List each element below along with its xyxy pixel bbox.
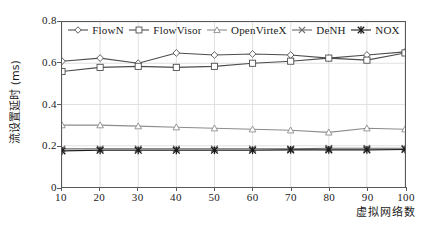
x-tick-40: 40 <box>170 191 182 203</box>
x-tick-10: 10 <box>55 191 67 203</box>
y-tick-0.2: 0.2 <box>42 140 57 151</box>
data-point-flowvisor-80 <box>326 55 332 61</box>
data-series-layer <box>62 22 405 187</box>
x-tick-mark <box>214 187 215 191</box>
chart-legend: FlowNFlowVisorOpenVirteXDeNHNOX <box>61 21 406 39</box>
series-line-nox <box>62 149 405 150</box>
x-tick-mark <box>137 187 138 191</box>
legend-marker-star-icon <box>350 24 372 36</box>
data-point-flowvisor-70 <box>288 58 294 64</box>
legend-label-flown: FlowN <box>92 24 124 36</box>
x-tick-mark <box>61 187 62 191</box>
legend-label-denh: DeNH <box>316 24 346 36</box>
data-point-flown-20 <box>97 55 104 62</box>
x-tick-mark <box>367 187 368 191</box>
x-tick-mark <box>329 187 330 191</box>
legend-item-nox[interactable]: NOX <box>350 24 399 36</box>
data-point-flowvisor-90 <box>364 57 370 63</box>
data-point-flown-40 <box>173 50 180 57</box>
x-tick-80: 80 <box>323 191 335 203</box>
plot-area <box>61 21 406 188</box>
legend-item-denh[interactable]: DeNH <box>291 24 346 36</box>
legend-item-flowvisor[interactable]: FlowVisor <box>128 24 201 36</box>
data-point-flowvisor-30 <box>135 63 141 69</box>
x-tick-30: 30 <box>132 191 144 203</box>
x-tick-100: 100 <box>397 191 415 203</box>
legend-marker-square-icon <box>128 24 150 36</box>
x-tick-20: 20 <box>93 191 105 203</box>
series-line-flown <box>62 52 405 63</box>
legend-marker-triangle-icon <box>206 24 228 36</box>
legend-item-flown[interactable]: FlowN <box>67 24 124 36</box>
latency-line-chart: 00.20.40.60.8 流设置延时 (ms) FlowNFlowVisorO… <box>0 0 432 232</box>
legend-marker-cross-icon <box>291 24 313 36</box>
x-tick-mark <box>252 187 253 191</box>
x-tick-mark <box>176 187 177 191</box>
legend-label-openvirtex: OpenVirteX <box>231 24 287 36</box>
x-tick-mark <box>406 187 407 191</box>
legend-item-openvirtex[interactable]: OpenVirteX <box>206 24 287 36</box>
data-point-flowvisor-100 <box>402 50 405 56</box>
x-tick-50: 50 <box>208 191 220 203</box>
series-line-denh <box>62 148 405 149</box>
x-axis-title: 虚拟网络数 <box>356 207 416 219</box>
x-tick-70: 70 <box>285 191 297 203</box>
data-point-flowvisor-40 <box>173 64 179 70</box>
data-point-flowvisor-20 <box>97 64 103 70</box>
y-axis-title: 流设置延时 (ms) <box>10 42 22 162</box>
legend-label-nox: NOX <box>375 24 399 36</box>
data-point-flown-10 <box>62 58 65 65</box>
y-tick-0.4: 0.4 <box>42 99 57 110</box>
series-line-openvirtex <box>62 125 405 132</box>
data-point-flowvisor-50 <box>211 63 217 69</box>
data-point-flown-70 <box>287 52 294 59</box>
y-tick-0.8: 0.8 <box>42 15 57 26</box>
data-point-flown-60 <box>249 51 256 58</box>
legend-marker-diamond-icon <box>67 24 89 36</box>
x-tick-mark <box>291 187 292 191</box>
data-point-flowvisor-10 <box>62 68 65 74</box>
x-tick-60: 60 <box>247 191 259 203</box>
data-point-flowvisor-60 <box>249 60 255 66</box>
x-tick-mark <box>99 187 100 191</box>
data-point-flown-50 <box>211 52 218 59</box>
x-tick-90: 90 <box>362 191 374 203</box>
y-tick-0.6: 0.6 <box>42 57 57 68</box>
x-axis-tick-labels: 102030405060708090100 <box>61 191 406 207</box>
legend-label-flowvisor: FlowVisor <box>153 24 201 36</box>
